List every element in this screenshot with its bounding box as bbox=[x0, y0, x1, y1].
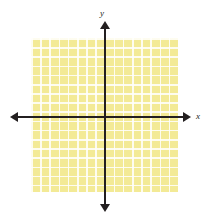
y-axis-label: y bbox=[100, 9, 104, 18]
y-axis-up-arrow-icon bbox=[100, 21, 110, 29]
x-axis-left-arrow-icon bbox=[10, 112, 18, 122]
y-axis-down-arrow-icon bbox=[100, 204, 110, 212]
coordinate-plane-figure: y x bbox=[0, 0, 211, 220]
x-axis-label: x bbox=[196, 112, 200, 121]
x-axis-right-arrow-icon bbox=[183, 112, 191, 122]
x-axis-line bbox=[16, 116, 187, 118]
y-axis-line bbox=[104, 26, 106, 208]
